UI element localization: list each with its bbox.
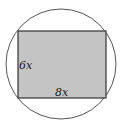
diagram-canvas: 6x 8x	[0, 0, 122, 125]
height-label: 6x	[19, 59, 33, 72]
width-label: 8x	[55, 86, 69, 99]
